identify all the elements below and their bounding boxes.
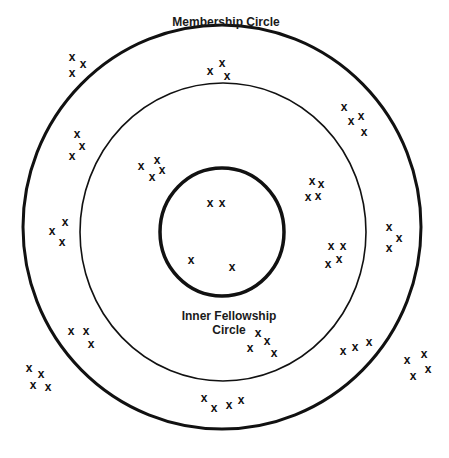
- membership-circle: [23, 25, 421, 429]
- member-mark: x: [255, 326, 262, 340]
- member-mark: x: [69, 66, 76, 80]
- mark-cluster-outside-top-left: xxx: [69, 50, 87, 80]
- member-mark: x: [386, 241, 393, 255]
- mark-cluster-outer-ring-upper-right: xxxx: [341, 100, 368, 139]
- member-mark: x: [83, 324, 90, 338]
- inner-fellowship-label-line2: Circle: [212, 323, 246, 337]
- member-mark: x: [341, 100, 348, 114]
- mark-cluster-inner-circle-bottom: xx: [188, 253, 236, 274]
- member-mark: x: [421, 347, 428, 361]
- member-mark: x: [336, 252, 343, 266]
- member-mark: x: [352, 340, 359, 354]
- mark-cluster-middle-ring-upper-left: xxxx: [138, 153, 166, 184]
- member-mark: x: [325, 257, 332, 271]
- member-mark: x: [69, 149, 76, 163]
- mark-cluster-outer-ring-top: xxx: [207, 56, 231, 83]
- member-mark: x: [348, 114, 355, 128]
- member-mark: x: [159, 163, 166, 177]
- mark-cluster-outside-bottom-left: xxxx: [26, 361, 52, 394]
- mark-cluster-middle-ring-lower-right: xxx: [340, 335, 373, 358]
- circles-group: [23, 25, 421, 429]
- member-mark: x: [340, 344, 347, 358]
- member-mark: x: [26, 361, 33, 375]
- member-mark: x: [30, 378, 37, 392]
- mark-cluster-outer-ring-left: xxx: [49, 215, 69, 249]
- member-mark: x: [386, 220, 393, 234]
- member-mark: x: [358, 109, 365, 123]
- member-mark: x: [404, 353, 411, 367]
- mark-cluster-middle-ring-lower-center: xxxx: [247, 326, 278, 360]
- member-mark: x: [224, 69, 231, 83]
- member-mark: x: [62, 215, 69, 229]
- mark-cluster-outer-ring-upper-left: xxx: [69, 127, 86, 163]
- member-mark: x: [38, 367, 45, 381]
- member-mark: x: [219, 196, 226, 210]
- member-mark: x: [247, 341, 254, 355]
- member-mark: x: [264, 334, 271, 348]
- member-mark: x: [207, 64, 214, 78]
- member-mark: x: [309, 174, 316, 188]
- member-mark: x: [207, 196, 214, 210]
- member-mark: x: [69, 50, 76, 64]
- member-mark: x: [201, 391, 208, 405]
- member-mark: x: [396, 231, 403, 245]
- member-mark: x: [211, 401, 218, 415]
- mark-cluster-outer-ring-bottom: xxxx: [201, 391, 245, 415]
- member-mark: x: [229, 260, 236, 274]
- member-mark: x: [315, 189, 322, 203]
- member-mark: x: [219, 56, 226, 70]
- mark-cluster-outside-bottom-right: xxxx: [404, 347, 432, 383]
- member-mark: x: [328, 239, 335, 253]
- member-mark: x: [366, 335, 373, 349]
- member-mark: x: [305, 190, 312, 204]
- member-mark: x: [88, 337, 95, 351]
- member-mark: x: [138, 159, 145, 173]
- member-mark: x: [45, 380, 52, 394]
- membership-circles-diagram: Membership Circle Inner Fellowship Circl…: [0, 0, 449, 458]
- member-mark: x: [340, 239, 347, 253]
- member-mark: x: [59, 235, 66, 249]
- member-mark: x: [80, 57, 87, 71]
- member-mark: x: [188, 253, 195, 267]
- membership-circle-label: Membership Circle: [172, 15, 280, 29]
- member-mark: x: [410, 369, 417, 383]
- mark-cluster-inner-circle-top: xx: [207, 196, 226, 210]
- member-mark: x: [361, 125, 368, 139]
- member-mark: x: [79, 139, 86, 153]
- member-mark: x: [238, 393, 245, 407]
- inner-fellowship-label-line1: Inner Fellowship: [182, 309, 277, 323]
- member-mark: x: [425, 362, 432, 376]
- mark-cluster-outer-ring-right: xxx: [386, 220, 403, 255]
- member-mark: x: [68, 324, 75, 338]
- inner-fellowship-circle: [160, 168, 284, 296]
- member-mark: x: [149, 170, 156, 184]
- mark-cluster-middle-ring-right: xxxx: [305, 174, 325, 204]
- mark-cluster-middle-ring-right-lower: xxxx: [325, 239, 347, 271]
- member-mark: x: [271, 346, 278, 360]
- member-mark: x: [49, 224, 56, 238]
- member-mark: x: [226, 398, 233, 412]
- mark-cluster-middle-ring-lower-left: xxx: [68, 324, 95, 351]
